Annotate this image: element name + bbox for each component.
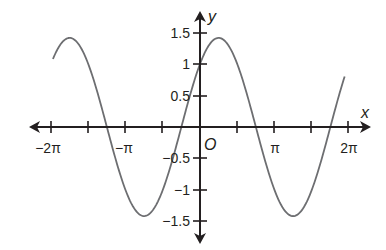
y-tick-label-0-5: 0.5 [171,88,191,104]
y-axis-label: y [207,8,217,25]
x-tick-label-neg-2pi: −2π [35,140,61,156]
x-tick-label-2pi: 2π [340,140,358,156]
origin-label: O [204,136,216,153]
y-tick-label-1-5: 1.5 [171,25,191,41]
y-tick-label-neg-1: −1 [174,182,190,198]
y-tick-label-1: 1 [182,56,190,72]
x-tick-label-neg-pi: −π [115,140,133,156]
y-tick-label-neg-1-5: −1.5 [162,213,190,229]
x-axis-label: x [360,104,370,121]
chart: −2π −π π 2π 1.5 1 0.5 −0.5 −1 −1.5 y x O [0,0,386,250]
y-tick-label-neg-0-5: −0.5 [162,150,190,166]
x-tick-label-pi: π [270,140,280,156]
